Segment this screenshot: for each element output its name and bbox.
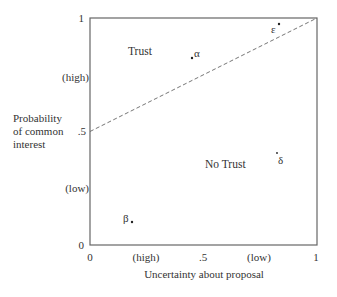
x-tick-0: 0: [87, 251, 93, 263]
point-beta-label: β: [123, 212, 129, 224]
y-axis-label-line2: of common: [13, 125, 64, 137]
y-axis-label-line1: Probability: [13, 112, 62, 124]
point-alpha: [191, 57, 193, 59]
x-tick-half: .5: [199, 251, 208, 263]
x-tick-low: (low): [247, 251, 271, 264]
no-trust-region-label: No Trust: [205, 158, 246, 170]
y-tick-half: .5: [78, 125, 87, 137]
y-tick-0: 0: [79, 239, 85, 251]
trust-boundary-line: [90, 18, 317, 132]
x-tick-1: 1: [313, 251, 319, 263]
trust-chart: 1 (high) .5 (low) 0 0 (high) .5 (low) 1 …: [0, 0, 337, 297]
plot-frame: [90, 18, 317, 245]
point-alpha-label: α: [194, 47, 200, 59]
y-tick-low: (low): [65, 182, 89, 195]
point-epsilon: [278, 23, 280, 25]
y-tick-1: 1: [79, 12, 85, 24]
y-axis-label-line3: interest: [13, 138, 45, 150]
trust-region-label: Trust: [128, 45, 153, 57]
x-tick-high: (high): [133, 251, 160, 264]
y-tick-high: (high): [62, 71, 89, 84]
x-axis-label: Uncertainty about proposal: [144, 268, 264, 280]
point-epsilon-label: ε: [271, 23, 276, 35]
point-delta-label: δ: [278, 154, 283, 166]
point-beta: [131, 221, 133, 223]
